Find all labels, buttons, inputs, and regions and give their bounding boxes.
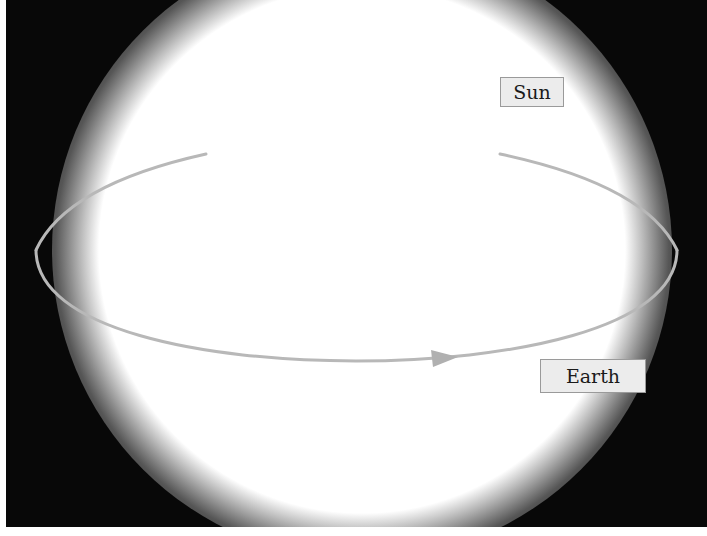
diagram-canvas: Sun Earth bbox=[6, 0, 707, 527]
earth-label: Earth bbox=[540, 359, 646, 393]
orbit-back-right bbox=[500, 154, 677, 250]
orbit-path bbox=[6, 0, 707, 527]
orbit-back-left bbox=[36, 154, 206, 250]
orbit-front bbox=[36, 250, 677, 361]
sun-label: Sun bbox=[500, 77, 564, 107]
orbit-direction-arrow-icon bbox=[431, 350, 458, 367]
